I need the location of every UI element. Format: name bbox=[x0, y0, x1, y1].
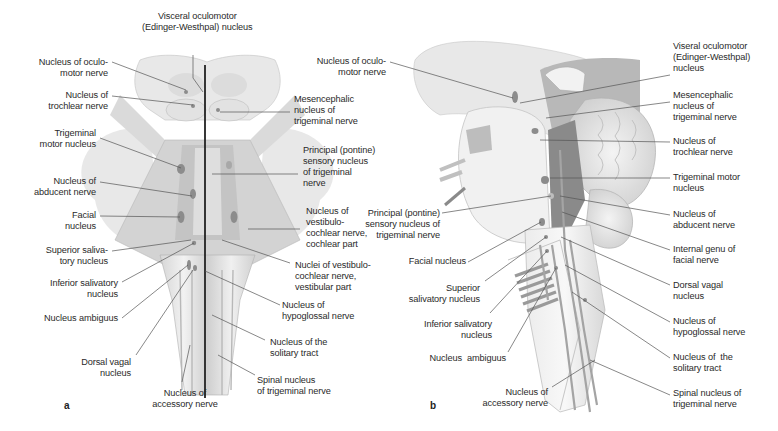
label-b-superior-salivatory-nucleus: Superior salivatory nucleus bbox=[380, 283, 480, 305]
label-a-oculomotor-nucleus: Nucleus of oculo- motor nerve bbox=[0, 57, 108, 79]
label-b-abducent-nucleus: Nucleus of abducent nerve bbox=[673, 209, 735, 231]
label-a-mesencephalic-nucleus: Mesencephalic nucleus of trigeminal nerv… bbox=[294, 94, 358, 127]
label-b-internal-genu-facial-nerve: Internal genu of facial nerve bbox=[673, 244, 735, 266]
panel-a-letter: a bbox=[64, 400, 70, 411]
label-a-hypoglossal-nucleus: Nucleus of hypoglossal nerve bbox=[282, 300, 354, 322]
figure: Visceral oculomotor (Edinger-Westhpal) n… bbox=[0, 0, 778, 431]
label-a-superior-salivatory-nucleus: Superior saliva- tory nucleus bbox=[0, 245, 108, 267]
label-a-accessory-nucleus: Nucleus of accessory nerve bbox=[145, 388, 225, 410]
label-a-nucleus-ambiguus: Nucleus ambiguus bbox=[0, 313, 118, 324]
panel-b-letter: b bbox=[430, 400, 436, 411]
label-b-principal-sensory-nucleus: Principal (pontine) sensory nucleus of t… bbox=[340, 208, 440, 241]
label-a-dorsal-vagal-nucleus: Dorsal vagal nucleus bbox=[0, 357, 131, 379]
label-b-trochlear-nucleus: Nucleus of trochlear nerve bbox=[673, 136, 733, 158]
label-a-trigeminal-motor-nucleus: Trigeminal motor nucleus bbox=[0, 128, 96, 150]
label-a-vestibulocochlear-vestibular-part: Nuclei of vestibulo- cochlear nerve, ves… bbox=[295, 260, 371, 293]
label-a-facial-nucleus: Facial nucleus bbox=[0, 210, 96, 232]
label-a-principal-sensory-nucleus: Principal (pontine) sensory nucleus of t… bbox=[303, 145, 375, 189]
label-b-trigeminal-motor-nucleus: Trigeminal motor nucleus bbox=[673, 172, 740, 194]
label-b-solitary-tract-nucleus: Nucleus of the solitary tract bbox=[673, 352, 733, 374]
label-b-dorsal-vagal-nucleus: Dorsal vagal nucleus bbox=[673, 280, 723, 302]
label-a-abducent-nucleus: Nucleus of abducent nerve bbox=[0, 176, 96, 198]
label-b-inferior-salivatory-nucleus: Inferior salivatory nucleus bbox=[380, 319, 492, 341]
label-a-visceral-oculomotor-nucleus: Visceral oculomotor (Edinger-Westhpal) n… bbox=[142, 11, 253, 33]
label-b-facial-nucleus: Facial nucleus bbox=[380, 256, 466, 267]
label-b-oculomotor-nucleus: Nucleus of oculo- motor nerve bbox=[300, 56, 386, 78]
label-b-visceral-oculomotor-nucleus: Viseral oculomotor (Edinger-Westhpal) nu… bbox=[673, 41, 750, 74]
label-a-inferior-salivatory-nucleus: Inferior salivatory nucleus bbox=[0, 278, 118, 300]
label-a-solitary-tract-nucleus: Nucleus of the solitary tract bbox=[270, 337, 327, 359]
label-b-hypoglossal-nucleus: Nucleus of hypoglossal nerve bbox=[673, 316, 745, 338]
label-b-spinal-trigeminal-nucleus: Spinal nucleus of trigeminal nerve bbox=[673, 388, 741, 410]
label-b-nucleus-ambiguus: Nucleus ambiguus bbox=[380, 353, 506, 364]
label-b-accessory-nucleus: Nucleus of accessory nerve bbox=[460, 387, 548, 409]
label-b-mesencephalic-nucleus: Mesencephalic nucleus of trigeminal nerv… bbox=[673, 90, 737, 123]
label-a-trochlear-nucleus: Nucleus of trochlear nerve bbox=[0, 90, 108, 112]
label-a-spinal-trigeminal-nucleus: Spinal nucleus of trigeminal nerve bbox=[257, 375, 331, 397]
